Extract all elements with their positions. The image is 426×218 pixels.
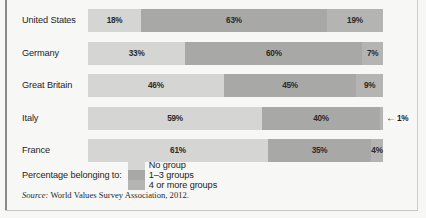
stacked-bar: 61%35%4%	[88, 139, 383, 162]
stacked-bar-plot-area: United States18%63%19%Germany33%60%7%Gre…	[0, 0, 426, 165]
bar-segment-value-label: 60%	[266, 49, 282, 58]
bar-segment: 9%	[356, 74, 383, 97]
legend-items: No group1–3 groups4 or more groups	[128, 160, 227, 190]
legend-item-label: 1–3 groups	[149, 170, 194, 180]
row-category-label: Italy	[22, 107, 84, 130]
row-category-label: France	[22, 139, 84, 162]
bar-segment-value-label: 61%	[170, 146, 186, 155]
chart-row: Italy59%40%←1%	[0, 107, 426, 130]
bar-segment-value-label: 46%	[148, 81, 164, 90]
chart-legend: Percentage belonging to: No group1–3 gro…	[22, 168, 227, 182]
legend-color-swatch	[128, 180, 145, 190]
bar-segment: 4%	[371, 139, 383, 162]
callout-value-label: 1%	[397, 107, 408, 130]
bar-segment-value-label: 18%	[107, 16, 123, 25]
bar-segment-value-label: 35%	[312, 146, 328, 155]
legend-item-label: 4 or more groups	[149, 180, 217, 190]
bar-segment-value-label: 9%	[364, 81, 375, 90]
bar-segment-value-label: 45%	[282, 81, 298, 90]
stacked-bar: 33%60%7%	[88, 42, 383, 65]
bar-segment-value-label: 7%	[367, 49, 378, 58]
source-lead: Source:	[22, 190, 48, 200]
legend-color-swatch	[128, 170, 145, 180]
legend-item: No group	[128, 160, 217, 170]
bar-segment: 61%	[88, 139, 268, 162]
bar-segment: 40%	[262, 107, 380, 130]
chart-figure: United States18%63%19%Germany33%60%7%Gre…	[0, 0, 426, 218]
segment-callout-annotation: ←1%	[386, 107, 408, 130]
chart-row: Great Britain46%45%9%	[0, 74, 426, 97]
bar-segment	[380, 107, 383, 130]
bar-segment: 19%	[327, 9, 383, 32]
chart-row: United States18%63%19%	[0, 9, 426, 32]
stacked-bar: 46%45%9%	[88, 74, 383, 97]
bar-segment-value-label: 33%	[129, 49, 145, 58]
bar-segment-value-label: 19%	[347, 16, 363, 25]
figure-frame-bottom-rule	[5, 210, 418, 211]
row-category-label: Germany	[22, 42, 84, 65]
bar-segment: 35%	[268, 139, 371, 162]
bar-segment: 18%	[88, 9, 141, 32]
chart-row: France61%35%4%	[0, 139, 426, 162]
legend-item: 4 or more groups	[128, 180, 217, 190]
row-category-label: United States	[22, 9, 84, 32]
bar-segment-value-label: 40%	[313, 114, 329, 123]
chart-source-note: Source: World Values Survey Association,…	[22, 190, 189, 200]
legend-color-swatch	[128, 160, 145, 170]
source-text: World Values Survey Association, 2012.	[48, 190, 189, 200]
bar-segment-value-label: 63%	[226, 16, 242, 25]
bar-segment: 63%	[141, 9, 327, 32]
row-category-label: Great Britain	[22, 74, 84, 97]
bar-segment: 45%	[224, 74, 357, 97]
chart-row: Germany33%60%7%	[0, 42, 426, 65]
stacked-bar: 59%40%	[88, 107, 383, 130]
bar-segment: 33%	[88, 42, 185, 65]
arrow-left-icon: ←	[386, 113, 396, 123]
legend-item: 1–3 groups	[128, 170, 217, 180]
bar-segment: 7%	[362, 42, 383, 65]
legend-title: Percentage belonging to:	[22, 170, 122, 180]
bar-segment: 60%	[185, 42, 362, 65]
bar-segment: 59%	[88, 107, 262, 130]
bar-segment-value-label: 4%	[371, 146, 382, 155]
legend-item-label: No group	[149, 160, 186, 170]
bar-segment: 46%	[88, 74, 224, 97]
bar-segment-value-label: 59%	[167, 114, 183, 123]
stacked-bar: 18%63%19%	[88, 9, 383, 32]
